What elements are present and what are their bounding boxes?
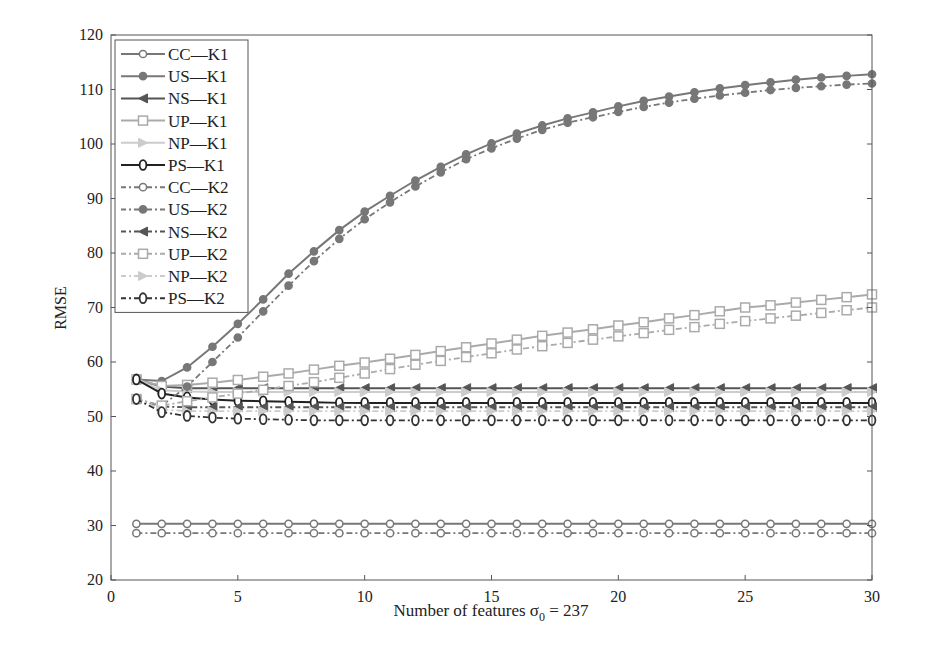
series-CC—K1 (133, 520, 876, 527)
x-tick-label: 5 (234, 588, 242, 605)
y-tick-label: 40 (87, 462, 103, 479)
x-tick-label: 0 (107, 588, 115, 605)
legend-label: CC—K2 (168, 178, 228, 197)
x-tick-label: 20 (610, 588, 626, 605)
x-tick-label: 25 (737, 588, 753, 605)
y-tick-label: 90 (87, 190, 103, 207)
y-tick-label: 80 (87, 244, 103, 261)
y-tick-label: 20 (87, 571, 103, 588)
legend-label: US—K2 (168, 200, 228, 219)
x-axis-label: Number of features σ0 = 237 (393, 601, 589, 624)
y-tick-label: 70 (87, 299, 103, 316)
y-tick-label: 110 (80, 81, 103, 98)
legend: CC—K1US—K1NS—K1UP—K1NP—K1PS—K1CC—K2US—K2… (115, 40, 248, 312)
legend-label: NP—K1 (168, 134, 228, 153)
series-NP—K2 (132, 395, 877, 416)
legend-label: NS—K1 (168, 89, 228, 108)
y-tick-label: 50 (87, 408, 103, 425)
y-tick-label: 60 (87, 353, 103, 370)
legend-label: UP—K1 (168, 112, 228, 131)
series-PS—K2 (133, 394, 875, 425)
y-tick-label: 30 (87, 517, 103, 534)
legend-label: UP—K2 (168, 245, 228, 264)
x-tick-label: 30 (864, 588, 880, 605)
series-NS—K1 (132, 375, 877, 393)
rmse-line-chart: 0510152025302030405060708090100110120 RM… (0, 0, 926, 655)
legend-label: NP—K2 (168, 267, 228, 286)
y-axis-label: RMSE (52, 286, 69, 330)
series-CC—K2 (133, 530, 876, 537)
x-tick-label: 10 (357, 588, 373, 605)
y-tick-label: 100 (79, 135, 103, 152)
legend-label: US—K1 (168, 67, 228, 86)
legend-label: NS—K2 (168, 223, 228, 242)
legend-label: CC—K1 (168, 45, 228, 64)
y-tick-label: 120 (79, 26, 103, 43)
legend-label: PS—K2 (168, 289, 225, 308)
legend-label: PS—K1 (168, 156, 225, 175)
